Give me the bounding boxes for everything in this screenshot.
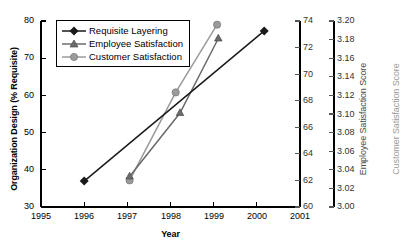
y-tick-right2-318: 3.18 (337, 34, 373, 44)
y-tick-right1-62: 62 (303, 175, 333, 185)
y-tick-right2-308: 3.08 (337, 127, 373, 137)
y-tick-right2-304: 3.04 (337, 164, 373, 174)
x-axis-title: Year (41, 229, 300, 239)
y-tick-right2-314: 3.14 (337, 71, 373, 81)
legend-marker-triangle-icon (61, 38, 87, 50)
y-tick-left-80: 80 (4, 15, 34, 25)
x-tick-1999: 1999 (194, 211, 234, 221)
x-tick-1995: 1995 (21, 211, 61, 221)
y-tick-right2-312: 3.12 (337, 90, 373, 100)
legend-label-employee-satisfaction: Employee Satisfaction (87, 38, 183, 49)
axis-right1-ticks (295, 21, 300, 207)
y-tick-right2-310: 3.10 (337, 109, 373, 119)
legend-item-customer-satisfaction: Customer Satisfaction (61, 50, 183, 63)
legend-marker-diamond-icon (61, 25, 87, 37)
legend-item-requisite-layering: Requisite Layering (61, 24, 183, 37)
axis-x-ticks (41, 202, 300, 207)
chart-legend: Requisite Layering Employee Satisfaction… (56, 20, 190, 67)
y-tick-right1-68: 68 (303, 95, 333, 105)
legend-item-employee-satisfaction: Employee Satisfaction (61, 37, 183, 50)
y-tick-right1-70: 70 (303, 69, 333, 79)
y-tick-left-30: 30 (4, 201, 34, 211)
x-tick-1996: 1996 (64, 211, 104, 221)
y-axis-left-title: Organization Design (% Requisite) (9, 21, 19, 217)
legend-marker-circle-icon (61, 51, 87, 63)
y-axis-right2-title: Customer Satisfaction Score (391, 24, 401, 214)
y-tick-left-40: 40 (4, 164, 34, 174)
legend-label-requisite-layering: Requisite Layering (87, 25, 168, 36)
axis-left-ticks (41, 21, 46, 207)
y-tick-right2-300: 3.00 (337, 201, 373, 211)
x-tick-2001: 2001 (280, 211, 320, 221)
y-tick-right2-316: 3.16 (337, 53, 373, 63)
y-tick-right1-74: 74 (303, 15, 333, 25)
y-tick-right2-320: 3.20 (337, 15, 373, 25)
y-tick-right1-60: 60 (303, 201, 333, 211)
legend-label-customer-satisfaction: Customer Satisfaction (87, 51, 182, 62)
y-tick-right1-66: 66 (303, 122, 333, 132)
x-tick-1998: 1998 (151, 211, 191, 221)
y-tick-right1-72: 72 (303, 42, 333, 52)
x-tick-2000: 2000 (237, 211, 277, 221)
y-tick-right2-302: 3.02 (337, 183, 373, 193)
y-tick-right2-306: 3.06 (337, 146, 373, 156)
y-tick-left-60: 60 (4, 90, 34, 100)
x-tick-1997: 1997 (107, 211, 147, 221)
y-tick-right1-64: 64 (303, 148, 333, 158)
y-tick-left-50: 50 (4, 127, 34, 137)
y-tick-left-70: 70 (4, 52, 34, 62)
